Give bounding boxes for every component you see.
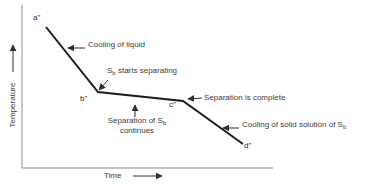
- annotation-sb-starts-separating: Sb starts separating: [107, 66, 177, 76]
- annotation-separation-continues-line1: Separation of S: [108, 116, 163, 125]
- annotation-cooling-of-solid-solution: Cooling of solid solution of Sb: [242, 120, 346, 130]
- annotation-separation-continues-line2: continues: [120, 126, 154, 135]
- x-axis-label: Time: [104, 171, 121, 180]
- annotation-cooling-of-liquid: Cooling of liquid: [88, 40, 145, 49]
- annotation-cooling-solid-pre: Cooling of solid solution of S: [242, 120, 343, 129]
- annotation-separation-is-complete: Separation is complete: [204, 93, 285, 102]
- annotation-separation-continues: Separation of Sbcontinues: [93, 116, 181, 135]
- diagram-canvas: [0, 0, 373, 188]
- separation-complete-arrow: [188, 98, 202, 99]
- cooling-curve-diagram: a" b" c" d" Cooling of liquid Sb starts …: [0, 0, 373, 188]
- annotation-separation-continues-sub: b: [163, 120, 166, 126]
- annotation-cooling-solid-sub: b: [343, 124, 346, 130]
- point-label-b: b": [80, 94, 87, 103]
- point-label-a: a": [33, 13, 40, 22]
- y-axis-label: Temperature: [8, 83, 17, 128]
- annotation-sb-starts-post: starts separating: [116, 66, 177, 75]
- point-label-d: d": [244, 141, 251, 150]
- sb-starts-arrow: [99, 80, 108, 90]
- point-label-c: c": [169, 100, 176, 109]
